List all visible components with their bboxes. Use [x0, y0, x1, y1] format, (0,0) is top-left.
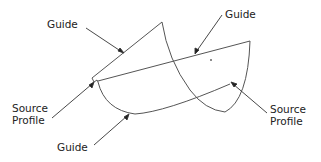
guide-edge-top-left — [92, 22, 162, 78]
label-guide-top-left: Guide — [47, 18, 78, 30]
label-guide-bottom: Guide — [57, 141, 88, 153]
guide-edge-chord — [98, 41, 250, 81]
leader-guide-top-left — [86, 28, 122, 52]
label-source-profile-left-1: Source — [12, 102, 48, 114]
source-profile-right-arc — [162, 22, 250, 112]
leader-guide-bottom — [94, 116, 127, 145]
label-guide-top-right: Guide — [225, 8, 256, 20]
arrow-head — [124, 114, 129, 120]
leader-guide-top-right — [196, 15, 222, 52]
source-profile-left-arc — [98, 82, 230, 114]
label-source-profile-right-1: Source — [270, 103, 306, 115]
label-source-profile-left-2: Profile — [12, 114, 45, 126]
center-dot — [210, 59, 212, 61]
leader-source-left — [52, 84, 92, 118]
label-source-profile-right-2: Profile — [270, 115, 303, 127]
profile-notch — [92, 78, 98, 82]
arrow-head — [89, 82, 94, 88]
arrow-head — [118, 48, 124, 53]
